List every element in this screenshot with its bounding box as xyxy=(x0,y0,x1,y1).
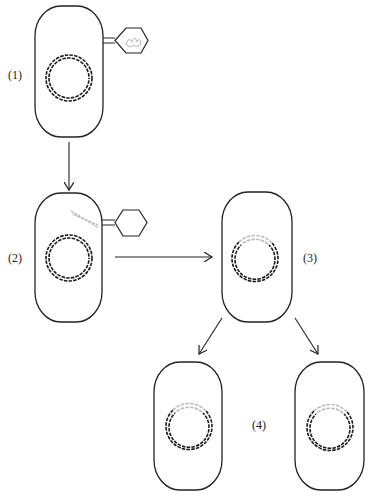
step-label-3: (3) xyxy=(303,251,317,266)
bacterial-chromosome xyxy=(46,235,92,281)
integrated-phage-dna xyxy=(239,236,271,242)
step-label-4: (4) xyxy=(252,418,266,433)
bacterial-chromosome-with-prophage xyxy=(166,404,212,450)
bacterial-chromosome-with-prophage xyxy=(232,236,278,282)
integrated-phage-dna xyxy=(314,405,346,411)
cell-step-3 xyxy=(222,192,292,322)
cell-step-1 xyxy=(35,6,148,137)
step-label-2: (2) xyxy=(8,251,22,266)
phage xyxy=(103,28,148,53)
injected-phage-dna xyxy=(71,211,99,228)
step-label-1: (1) xyxy=(8,68,22,83)
bacterial-chromosome-with-prophage xyxy=(307,405,353,451)
arrow-step3-to-daughter-left xyxy=(199,318,222,354)
phage xyxy=(102,210,147,236)
empty-phage-head xyxy=(115,210,147,236)
diagram-canvas xyxy=(0,0,374,500)
bacterial-cell-outline xyxy=(35,6,103,137)
arrow-step3-to-daughter-right xyxy=(295,318,318,354)
bacterial-chromosome xyxy=(46,55,92,101)
cell-step-4-left xyxy=(154,362,222,490)
cell-step-4-right xyxy=(295,362,364,490)
integrated-phage-dna xyxy=(173,404,205,410)
